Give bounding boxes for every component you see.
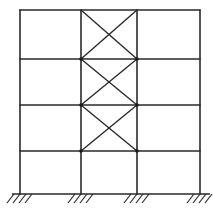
fixed-support-hatch	[142, 194, 149, 203]
fixed-support-hatch	[193, 194, 200, 203]
fixed-support-hatch	[136, 194, 143, 203]
fixed-support-hatch	[86, 194, 93, 203]
fixed-support-hatch	[74, 194, 81, 203]
joint-node	[79, 149, 83, 153]
joint-node	[135, 149, 139, 153]
columns	[20, 10, 200, 194]
fixed-support-hatch	[13, 194, 20, 203]
ground-support	[7, 194, 212, 203]
joint-node	[79, 57, 83, 61]
fixed-support-hatch	[7, 194, 14, 203]
fixed-support-hatch	[80, 194, 87, 203]
joint-node	[79, 103, 83, 107]
fixed-support-hatch	[25, 194, 32, 203]
fixed-support-hatch	[187, 194, 194, 203]
fixed-support-hatch	[19, 194, 26, 203]
fixed-support-hatch	[205, 194, 212, 203]
fixed-support-hatch	[124, 194, 131, 203]
joint-node	[135, 57, 139, 61]
x-braces	[81, 10, 137, 151]
braced-frame-diagram	[0, 0, 213, 210]
fixed-support-hatch	[199, 194, 206, 203]
joint-node	[135, 103, 139, 107]
fixed-support-hatch	[130, 194, 137, 203]
fixed-support-hatch	[68, 194, 75, 203]
